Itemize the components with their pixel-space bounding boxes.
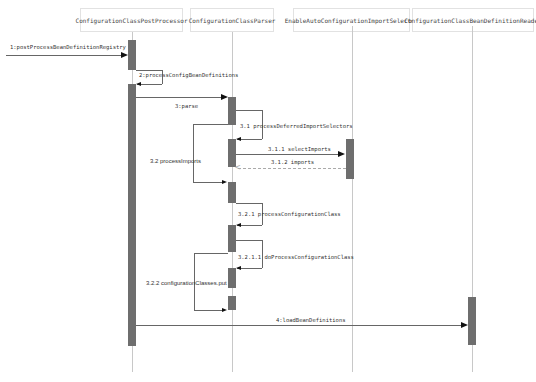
message-3-1-2-line [238, 168, 346, 169]
message-3-2-1-label: 3.2.1 processConfigurationClass [238, 211, 341, 217]
arrow-head-icon [236, 223, 241, 227]
participant-configuration-class-post-processor: ConfigurationClassPostProcessor [80, 8, 183, 32]
activation-parser-5 [228, 268, 236, 288]
open-arrow-head-icon: < [235, 163, 240, 172]
message-3-1-label: 3.1 processDeferredImportSelectors [240, 123, 353, 129]
message-3-2-2-label: 3.2.2 configurationClasses.put [146, 280, 227, 286]
arrow-head-icon [236, 266, 241, 270]
activation-import-selector [346, 139, 354, 179]
arrow-head-icon [222, 308, 227, 312]
message-3-2-side [193, 124, 194, 182]
message-2-top [136, 70, 162, 71]
arrow-head-icon [222, 180, 227, 184]
participant-configuration-class-bean-definition-reader: ConfigurationClassBeanDefinitionReader [412, 8, 534, 32]
message-3-label: 3:parse [175, 103, 198, 109]
lifeline-import-selector [352, 26, 353, 372]
activation-parser-4 [228, 225, 236, 252]
message-1-line [6, 55, 122, 56]
message-3-2-label: 3.2 processImports [150, 158, 201, 164]
message-3-2-2-bottom [194, 310, 223, 311]
message-3-2-bottom [193, 182, 223, 183]
message-3-1-top [236, 110, 262, 111]
message-2-label: 2:processConfigBeanDefinitions [139, 72, 238, 78]
message-4-line [136, 325, 462, 326]
arrow-head-icon [338, 151, 345, 157]
arrow-head-icon [236, 137, 241, 141]
activation-post-processor-1 [128, 40, 136, 70]
message-3-line [136, 97, 222, 98]
message-3-1-1-line [236, 154, 338, 155]
arrow-head-icon [221, 94, 228, 100]
message-3-2-2-top [194, 253, 228, 254]
arrow-head-icon [461, 322, 468, 328]
message-3-2-top [193, 124, 228, 125]
arrow-head-icon [136, 82, 141, 86]
activation-parser-1 [228, 97, 236, 125]
arrow-head-icon [121, 52, 128, 58]
message-3-1-2-label: 3.1.2 imports [271, 159, 314, 165]
message-3-2-1-top [236, 203, 262, 204]
message-1-label: 1:postProcessBeanDefinitionRegistry [10, 44, 126, 50]
activation-parser-6 [228, 296, 236, 310]
activation-parser-3 [228, 182, 236, 203]
message-3-2-1-1-label: 3.2.1.1 doProcessConfigurationClass [238, 254, 354, 260]
activation-bean-definition-reader [468, 297, 476, 345]
message-4-label: 4:loadBeanDefinitions [276, 317, 346, 323]
message-3-2-1-1-top [236, 240, 262, 241]
message-3-1-1-label: 3.1.1 selectImports [268, 146, 331, 152]
activation-post-processor-2 [128, 84, 136, 346]
participant-configuration-class-parser: ConfigurationClassParser [190, 8, 274, 32]
